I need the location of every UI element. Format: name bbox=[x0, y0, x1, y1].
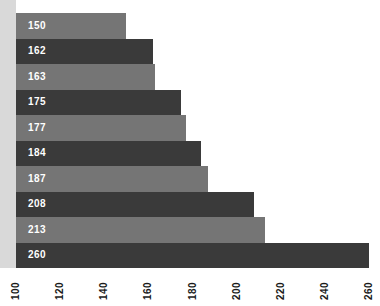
bar-value-label: 162 bbox=[28, 46, 46, 56]
bar-chart: 150162163175177184187208213260 100120140… bbox=[0, 0, 380, 306]
bar-value-label: 184 bbox=[28, 148, 46, 158]
x-axis-tick-label: 180 bbox=[188, 282, 198, 300]
bar-value-label: 177 bbox=[28, 123, 46, 133]
bar[interactable]: 163 bbox=[16, 64, 155, 90]
bar-value-label: 187 bbox=[28, 174, 46, 184]
bar-row: 213 bbox=[0, 217, 380, 243]
bar-value-label: 175 bbox=[28, 97, 46, 107]
bar-row: 150 bbox=[0, 13, 380, 39]
bar[interactable]: 187 bbox=[16, 166, 208, 192]
bar-value-label: 150 bbox=[28, 21, 46, 31]
bar[interactable]: 208 bbox=[16, 192, 254, 218]
bar-value-label: 163 bbox=[28, 72, 46, 82]
bar[interactable]: 184 bbox=[16, 141, 201, 167]
bar-row: 208 bbox=[0, 192, 380, 218]
bar-value-label: 260 bbox=[28, 250, 46, 260]
bar-value-label: 213 bbox=[28, 225, 46, 235]
bar-row: 260 bbox=[0, 243, 380, 269]
bar[interactable]: 175 bbox=[16, 90, 181, 116]
x-axis-tick-label: 260 bbox=[364, 282, 374, 300]
x-axis-tick-label: 100 bbox=[11, 282, 21, 300]
bar-value-label: 208 bbox=[28, 199, 46, 209]
bar[interactable]: 150 bbox=[16, 13, 126, 39]
x-axis-tick-label: 140 bbox=[99, 282, 109, 300]
x-axis-tick-label: 200 bbox=[232, 282, 242, 300]
bar[interactable]: 260 bbox=[16, 243, 369, 269]
x-axis-tick-label: 120 bbox=[55, 282, 65, 300]
bar[interactable]: 177 bbox=[16, 115, 186, 141]
x-axis-tick-label: 160 bbox=[143, 282, 153, 300]
bar-row: 177 bbox=[0, 115, 380, 141]
bar-row: 163 bbox=[0, 64, 380, 90]
bar[interactable]: 213 bbox=[16, 217, 265, 243]
x-axis-tick-label: 220 bbox=[276, 282, 286, 300]
bar-row: 175 bbox=[0, 90, 380, 116]
bar[interactable]: 162 bbox=[16, 39, 153, 65]
x-axis-tick-label: 240 bbox=[320, 282, 330, 300]
bar-row: 187 bbox=[0, 166, 380, 192]
bar-row: 184 bbox=[0, 141, 380, 167]
bar-row: 162 bbox=[0, 39, 380, 65]
x-axis: 100120140160180200220240260 bbox=[0, 268, 380, 306]
plot-area: 150162163175177184187208213260 bbox=[0, 13, 380, 268]
